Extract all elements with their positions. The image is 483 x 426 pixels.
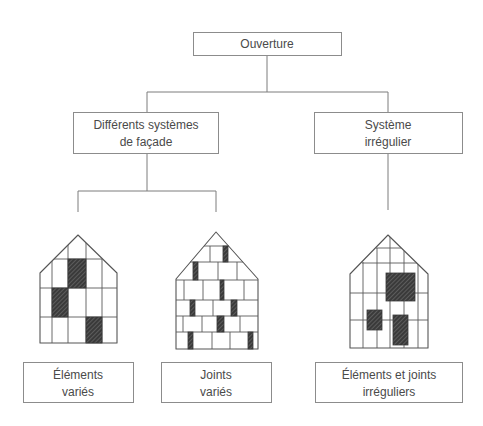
hatched-door [393, 315, 408, 345]
node-varied-joints: Joints variés [162, 363, 272, 403]
node-branch-2-label-line-1: Système [365, 118, 412, 132]
hatched-joint [188, 332, 193, 349]
house-varied-joints-icon [176, 232, 258, 349]
hatched-joint [248, 332, 253, 349]
node-irregular-system: Système irrégulier [315, 113, 463, 154]
hatched-joint [220, 280, 224, 300]
house-varied-elements-icon [40, 235, 117, 343]
node-leaf-2-label-line-2: variés [200, 385, 232, 399]
facade-opening-diagram: Ouverture Différents systèmes de façade … [0, 0, 483, 426]
node-leaf-3-label-line-1: Éléments et joints [342, 367, 437, 382]
node-branch-1-label-line-1: Différents systèmes [93, 118, 198, 132]
hatched-element [68, 259, 86, 288]
hatched-joint [231, 300, 237, 316]
node-leaf-3-label-line-2: irréguliers [363, 385, 416, 399]
node-leaf-1-label-line-2: variés [62, 385, 94, 399]
house-irregular-elements-joints-icon [350, 235, 428, 348]
node-root-label: Ouverture [240, 37, 294, 51]
hatched-element [86, 317, 102, 343]
hatched-small-window [367, 310, 382, 330]
hatched-joint [190, 300, 195, 316]
node-different-facade-systems: Différents systèmes de façade [74, 113, 219, 154]
hatched-joint [193, 262, 198, 280]
node-irregular-elements-joints: Éléments et joints irréguliers [316, 363, 463, 403]
node-varied-elements: Éléments variés [24, 363, 134, 403]
hatched-joint [217, 316, 224, 332]
hatched-element [52, 288, 68, 317]
node-leaf-1-label-line-1: Éléments [53, 367, 103, 382]
hatched-joint [223, 246, 228, 262]
node-leaf-2-label-line-1: Joints [200, 368, 231, 382]
hatched-large-window [386, 273, 415, 301]
node-root: Ouverture [194, 33, 342, 56]
node-branch-2-label-line-2: irrégulier [365, 135, 412, 149]
node-branch-1-label-line-2: de façade [120, 135, 173, 149]
